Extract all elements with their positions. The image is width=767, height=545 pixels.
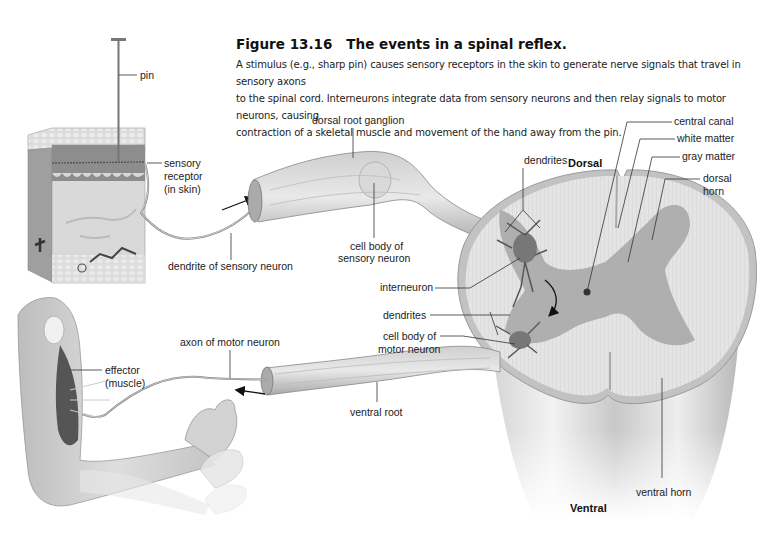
label-interneuron: interneuron (380, 281, 433, 293)
label-effector-2: (muscle) (105, 377, 145, 389)
label-ventral: Ventral (570, 502, 607, 514)
label-dendrite-of-sensory-neuron: dendrite of sensory neuron (168, 260, 293, 272)
spinal-cord (458, 170, 757, 520)
skin-block (28, 128, 145, 283)
label-effector-1: effector (105, 364, 140, 376)
label-dendrites-lower: dendrites (383, 309, 426, 321)
label-dorsal-horn-1: dorsal (703, 172, 732, 184)
label-gray-matter: gray matter (682, 150, 736, 162)
label-cell-body-motor-1: cell body of (383, 330, 436, 342)
label-sensory-receptor-3: (in skin) (164, 183, 201, 195)
label-ventral-horn: ventral horn (636, 486, 692, 498)
label-dorsal-horn-2: horn (703, 185, 724, 197)
label-cell-body-sensory-2: sensory neuron (338, 252, 411, 264)
label-cell-body-motor-2: motor neuron (378, 343, 441, 355)
arm (18, 298, 246, 515)
label-cell-body-sensory-1: cell body of (350, 240, 403, 252)
label-white-matter: white matter (676, 132, 735, 144)
label-dorsal: Dorsal (568, 157, 602, 169)
label-sensory-receptor-2: receptor (164, 170, 203, 182)
label-axon-of-motor-neuron: axon of motor neuron (180, 336, 280, 348)
label-ventral-root: ventral root (350, 406, 403, 418)
spinal-reflex-diagram: pin sensory receptor (in skin) dendrite … (0, 0, 767, 545)
label-sensory-receptor-1: sensory (164, 157, 202, 169)
label-dorsal-root-ganglion: dorsal root ganglion (312, 114, 404, 126)
label-pin: pin (140, 69, 154, 81)
label-central-canal: central canal (674, 115, 734, 127)
label-dendrites-upper: dendrites (524, 154, 567, 166)
